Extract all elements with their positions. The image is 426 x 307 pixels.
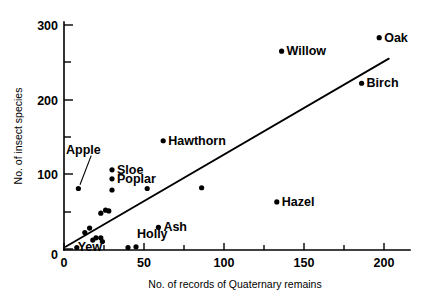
data-point [145,186,150,191]
data-point [87,225,92,230]
data-point-sloe [109,167,114,172]
x-axis-title: No. of records of Quaternary remains [148,278,321,290]
data-point-yew [125,245,130,250]
point-label-willow: Willow [287,44,327,58]
data-point-apple [76,186,81,191]
point-label-apple: Apple [66,143,101,157]
point-label-oak: Oak [384,31,408,45]
x-tick-label-200: 200 [374,256,395,270]
point-label-birch: Birch [367,76,399,90]
y-tick-label-200: 200 [37,94,58,108]
point-label-yew: Yew [78,240,103,254]
y-tick-label-300: 300 [37,19,58,33]
y-tick-label-100: 100 [37,168,58,182]
labeled-points-group: OakWillowBirchHawthornSloePoplarHazelAsh… [76,31,408,254]
point-label-hawthorn: Hawthorn [168,134,226,148]
data-point-poplar [109,176,114,181]
scatter-chart: 300 200 100 0 0 50 100 150 200 No. of re… [0,0,426,307]
data-point-birch [359,81,364,86]
plot-area: 300 200 100 0 0 50 100 150 200 No. of re… [0,0,426,307]
data-point-willow [279,49,284,54]
x-tick-label-100: 100 [214,256,235,270]
x-tick-label-0: 0 [61,256,68,270]
data-point [103,208,108,213]
data-point [98,211,103,216]
apple-leader-line [80,156,91,185]
point-label-holly: Holly [137,227,168,241]
data-point [109,187,114,192]
point-label-poplar: Poplar [117,172,156,186]
point-label-hazel: Hazel [282,195,315,209]
y-axis-title: No. of insect species [12,88,24,185]
data-point [82,230,87,235]
data-point-holly [133,244,138,249]
y-axis-ticks [64,25,73,249]
y-tick-label-0: 0 [51,248,58,262]
data-point-oak [377,35,382,40]
data-point-hawthorn [161,138,166,143]
x-axis-ticks [64,243,384,250]
x-tick-label-150: 150 [294,256,315,270]
data-point [199,185,204,190]
data-point-hazel [274,199,279,204]
x-tick-label-50: 50 [137,256,151,270]
regression-line [66,59,389,247]
